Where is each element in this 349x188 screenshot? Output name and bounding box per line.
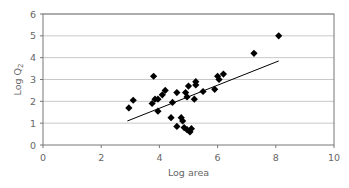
data-point [275, 32, 282, 39]
data-point [220, 70, 227, 77]
x-tick-label: 6 [215, 152, 221, 163]
scatter-chart: 01234560246810Log areaLog Q2 [0, 0, 349, 188]
y-tick-label: 1 [30, 118, 36, 129]
data-point [211, 86, 218, 93]
data-point [169, 99, 176, 106]
y-tick-label: 4 [30, 52, 36, 63]
data-point [199, 88, 206, 95]
data-point [173, 123, 180, 130]
x-tick-label: 2 [98, 152, 104, 163]
data-point [185, 82, 192, 89]
y-axis-label: Log Q2 [12, 64, 25, 96]
data-point [173, 89, 180, 96]
data-point [167, 114, 174, 121]
data-point [150, 73, 157, 80]
y-tick-label: 3 [30, 74, 36, 85]
data-point [154, 108, 161, 115]
x-tick-label: 10 [328, 152, 340, 163]
x-tick-label: 0 [40, 152, 46, 163]
y-tick-label: 2 [30, 96, 36, 107]
y-tick-label: 0 [30, 140, 36, 151]
x-tick-label: 8 [273, 152, 279, 163]
data-point [125, 104, 132, 111]
data-point [130, 97, 137, 104]
y-tick-label: 6 [30, 9, 36, 20]
y-tick-label: 5 [30, 30, 36, 41]
x-axis-label: Log area [168, 167, 209, 178]
data-point [250, 50, 257, 57]
x-tick-label: 4 [156, 152, 162, 163]
